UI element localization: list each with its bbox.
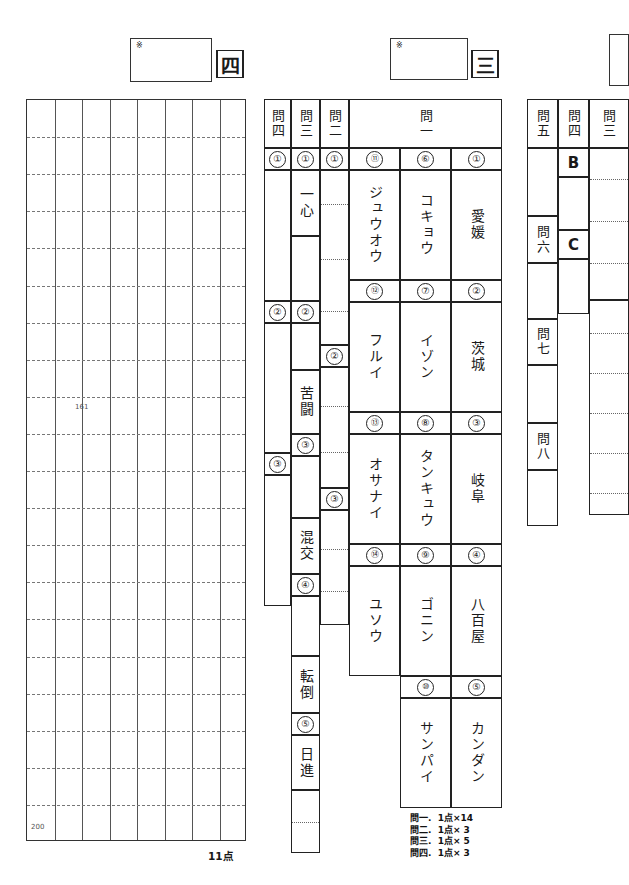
mon-san-blank-5[interactable] — [291, 790, 320, 853]
dotted-guide-line — [321, 406, 348, 407]
mon-ichi-num-11: ⑪ — [349, 148, 400, 170]
grid-row-line — [27, 619, 245, 620]
mon-san-answer-3[interactable]: 混交 — [291, 518, 320, 574]
circled-number: ⑦ — [417, 283, 434, 300]
mon-ni-answer-3[interactable] — [320, 510, 349, 625]
mon-ichi-answer-2[interactable]: 茨城 — [451, 302, 502, 412]
mon-ichi-num-8: ⑧ — [400, 412, 451, 434]
section-four-score-box[interactable]: ※ — [130, 38, 212, 82]
mon-ichi-answer-7[interactable]: イゾン — [400, 302, 451, 412]
grid-row-line — [27, 137, 245, 138]
mon-ichi-answer-12[interactable]: フルイ — [349, 302, 400, 412]
mon-ichi-answer-3[interactable]: 岐阜 — [451, 434, 502, 544]
mon-yon-answer-b[interactable]: B — [558, 148, 589, 177]
grid-row-line — [27, 397, 245, 398]
dotted-guide-line — [321, 259, 348, 260]
section-two-score-box-partial[interactable] — [609, 34, 629, 86]
dotted-guide-line — [590, 453, 628, 454]
mon-ichi-answer-4[interactable]: 八百屋 — [451, 566, 502, 676]
circled-number: ① — [468, 151, 485, 168]
circled-number: ② — [468, 283, 485, 300]
mon-san-blank-2[interactable] — [291, 323, 320, 370]
header-right-mon-shichi: 問七 — [527, 319, 558, 365]
dotted-guide-line — [590, 333, 628, 334]
circled-number: ⑫ — [366, 283, 383, 300]
mon-yon-answer-1[interactable] — [264, 170, 291, 301]
circled-number: ⑭ — [366, 547, 383, 564]
mon-san-answer-1[interactable]: 一心 — [291, 170, 320, 236]
section-three-badge-label: 三 — [472, 50, 498, 78]
section-four-total: 11点 — [208, 848, 233, 863]
mon-ichi-answer-10[interactable]: サンパイ — [400, 698, 451, 808]
circled-number: ④ — [297, 577, 314, 594]
section-four-badge: 四 — [216, 50, 244, 78]
mon-ichi-num-1: ① — [451, 148, 502, 170]
mon-san-num-1: ① — [291, 148, 320, 170]
mon-ichi-answer-1[interactable]: 愛媛 — [451, 170, 502, 280]
right-mon-san-answer-2[interactable] — [589, 300, 629, 515]
mon-san-blank-4[interactable] — [291, 596, 320, 656]
circled-number: ② — [297, 304, 314, 321]
mon-san-answer-2[interactable]: 苦闘 — [291, 370, 320, 434]
dotted-guide-line — [321, 549, 348, 550]
mon-san-blank-3[interactable] — [291, 456, 320, 518]
score-asterisk-icon: ※ — [136, 42, 143, 50]
mon-hachi-answer[interactable] — [527, 470, 558, 526]
grid-row-line — [27, 286, 245, 287]
mon-ichi-num-12: ⑫ — [349, 280, 400, 302]
mon-yon-answer-c[interactable]: C — [558, 230, 589, 259]
mon-ichi-answer-6[interactable]: コキョウ — [400, 170, 451, 280]
dotted-guide-line — [590, 179, 628, 180]
mon-san-blank-1[interactable] — [291, 236, 320, 301]
mon-san-answer-5[interactable]: 日進 — [291, 735, 320, 790]
scoring-row-4: 問四. 1点× 3 — [410, 848, 473, 860]
circled-number: ③ — [297, 437, 314, 454]
mon-ichi-num-2: ② — [451, 280, 502, 302]
scoring-row-2: 問二. 1点× 3 — [410, 825, 473, 837]
mon-ni-num-3: ③ — [320, 488, 349, 510]
mon-ichi-answer-5[interactable]: カンダン — [451, 698, 502, 808]
mon-ichi-answer-11[interactable]: ジュウオウ — [349, 170, 400, 280]
grid-row-line — [27, 323, 245, 324]
mon-ichi-answer-8[interactable]: タンキュウ — [400, 434, 451, 544]
mon-ni-answer-1[interactable] — [320, 170, 349, 345]
mon-yon-num-3: ③ — [264, 453, 291, 475]
dotted-guide-line — [590, 373, 628, 374]
mon-yon-answer-3[interactable] — [264, 475, 291, 606]
mon-san-num-3: ③ — [291, 434, 320, 456]
grid-row-line — [27, 174, 245, 175]
circled-number: ⑬ — [366, 415, 383, 432]
mon-ichi-num-13: ⑬ — [349, 412, 400, 434]
mon-shichi-answer[interactable] — [527, 365, 558, 423]
grid-row-line — [27, 211, 245, 212]
mon-ichi-num-7: ⑦ — [400, 280, 451, 302]
mon-roku-answer[interactable] — [527, 263, 558, 319]
grid-row-line — [27, 471, 245, 472]
mon-san-num-2: ② — [291, 301, 320, 323]
scoring-row-1: 問一. 1点×14 — [410, 813, 473, 825]
mon-yon-num-1: ① — [264, 148, 291, 170]
dotted-guide-line — [321, 591, 348, 592]
right-mon-san-answer[interactable] — [589, 148, 629, 300]
section-three-score-box[interactable]: ※ — [390, 38, 468, 80]
mon-yon-answer-2[interactable] — [264, 323, 291, 453]
mon-ni-num-1: ① — [320, 148, 349, 170]
mon-go-answer[interactable] — [527, 148, 558, 216]
circled-number: ③ — [468, 415, 485, 432]
header-right-mon-yon: 問四 — [558, 99, 589, 148]
mon-ichi-num-3: ③ — [451, 412, 502, 434]
header-right-mon-roku: 問六 — [527, 216, 558, 263]
mon-ichi-answer-9[interactable]: ゴニン — [400, 566, 451, 676]
dotted-guide-line — [321, 452, 348, 453]
mon-san-answer-4[interactable]: 転倒 — [291, 656, 320, 713]
mon-ichi-answer-13[interactable]: オサナイ — [349, 434, 400, 544]
grid-row-line — [27, 694, 245, 695]
mon-yon-blank-b[interactable] — [558, 177, 589, 230]
dotted-guide-line — [321, 204, 348, 205]
mon-ni-answer-2[interactable] — [320, 367, 349, 488]
header-right-mon-san: 問三 — [589, 99, 629, 148]
manuscript-grid[interactable]: 161 200 — [26, 99, 246, 841]
mon-ichi-answer-14[interactable]: ユソウ — [349, 566, 400, 676]
circled-number: ④ — [468, 547, 485, 564]
mon-yon-blank-c[interactable] — [558, 259, 589, 314]
